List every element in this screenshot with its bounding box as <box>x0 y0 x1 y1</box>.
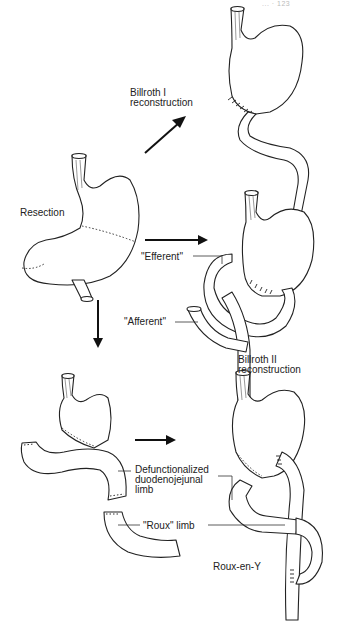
arrow-to-billroth2 <box>145 235 208 245</box>
label-roux-limb: "Roux" limb <box>143 521 195 531</box>
roux-limb-segment <box>104 512 180 557</box>
label-afferent: "Afferent" <box>124 317 166 327</box>
label-billroth2: Billroth II reconstruction <box>238 355 301 375</box>
defunctionalized-limb <box>21 442 126 500</box>
roux-stomach-remnant <box>59 374 111 449</box>
arrow-to-rouxeny-step <box>93 300 103 348</box>
label-roux-en-y: Roux-en-Y <box>213 562 261 572</box>
label-defunctionalized-limb: Defunctionalized duodenojejunal limb <box>135 465 209 495</box>
arrow-to-rouxeny <box>135 435 176 445</box>
label-billroth1: Billroth I reconstruction <box>130 88 193 108</box>
billroth1-stomach <box>228 7 303 115</box>
resection-stomach <box>22 154 139 302</box>
rouxeny-roux-limb <box>276 452 304 620</box>
arrow-to-billroth1 <box>145 116 186 153</box>
label-efferent: "Efferent" <box>141 252 183 262</box>
label-resection: Resection <box>20 208 64 218</box>
